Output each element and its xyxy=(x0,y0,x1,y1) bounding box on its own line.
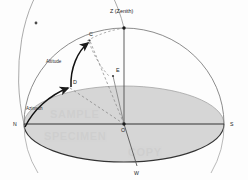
watermark-line-1: SAMPLE xyxy=(50,108,99,120)
label-horizon-projection-point: D xyxy=(73,79,77,85)
label-east-point: E xyxy=(116,67,120,73)
watermark-line-2: SPECIMEN xyxy=(44,130,106,142)
celestial-sphere-figure: SAMPLE SPECIMEN COPY xyxy=(0,0,248,180)
zenith-point-marker xyxy=(122,26,125,29)
celestial-sphere-diagram: SAMPLE SPECIMEN COPY xyxy=(0,0,248,180)
label-azimuth: Azimuth xyxy=(26,106,43,111)
star-to-horizon-dashed-arc xyxy=(89,42,110,77)
label-west: W xyxy=(134,170,139,176)
decorative-star-dot-icon xyxy=(35,22,38,25)
origin-point-marker xyxy=(122,122,125,125)
label-altitude: Altitude xyxy=(46,59,62,64)
label-origin: O xyxy=(121,127,125,133)
label-south: S xyxy=(230,121,234,127)
label-star-point: C xyxy=(89,31,93,37)
star-point-marker xyxy=(88,39,90,41)
label-zenith: Z (Zenith) xyxy=(110,8,134,14)
east-point-marker xyxy=(112,75,114,77)
label-north: N xyxy=(13,121,17,127)
